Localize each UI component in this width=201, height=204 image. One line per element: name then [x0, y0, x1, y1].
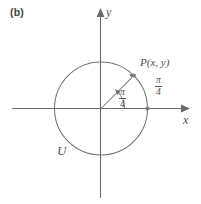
- point-p-marker: [132, 74, 136, 78]
- y-axis-arrowhead: [97, 8, 105, 17]
- point-a-marker: [145, 106, 149, 110]
- x-axis-label: x: [183, 113, 188, 128]
- angle-label-denominator: 4: [119, 100, 126, 110]
- angle-label-numerator: π: [119, 88, 126, 98]
- y-axis-label: y: [106, 5, 111, 20]
- arc-label-numerator: π: [155, 76, 162, 86]
- x-axis-arrowhead: [181, 105, 190, 113]
- point-label-p: P(x, y): [140, 56, 169, 68]
- unit-circle-figure: (b) y x U P(x, y) π 4 π 4: [0, 0, 201, 204]
- circle-label-u: U: [57, 143, 66, 159]
- figure-canvas: [0, 0, 201, 204]
- radius-segment: [101, 78, 132, 109]
- arc-label-pi-over-4: π 4: [155, 76, 162, 97]
- arc-label-denominator: 4: [155, 88, 162, 98]
- angle-label-pi-over-4: π 4: [119, 88, 126, 109]
